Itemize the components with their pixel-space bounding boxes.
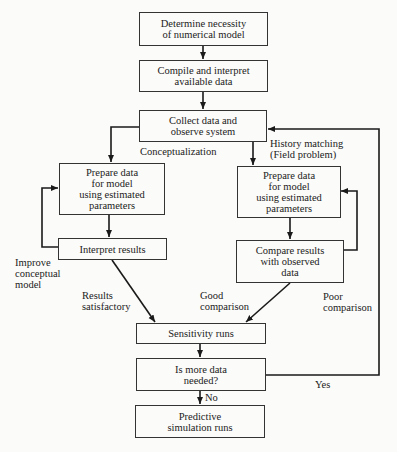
node-interpret-results: Interpret results [58,238,167,260]
node-collect-data: Collect data and observe system [139,110,267,142]
node-prepare-data-left: Prepare data for model using estimated p… [59,163,165,215]
node-determine-necessity: Determine necessity of numerical model [139,12,268,46]
label-yes: Yes [315,379,330,390]
node-label: Prepare data for model using estimated p… [256,170,322,214]
node-compare-results: Compare results with observed data [236,240,344,283]
node-label: Predictive simulation runs [167,411,232,433]
label-improve-model: Improve conceptual model [15,257,60,290]
node-label: Interpret results [79,244,145,255]
node-label: Is more data needed? [175,364,227,386]
label-results-satisfactory: Results satisfactory [82,290,130,312]
label-conceptualization: Conceptualization [140,146,216,157]
node-compile-data: Compile and interpret available data [139,60,268,92]
node-label: Collect data and observe system [169,115,237,137]
label-history-matching: History matching (Field problem) [270,138,343,160]
node-label: Determine necessity of numerical model [161,18,246,40]
label-good-comparison: Good comparison [200,290,249,312]
node-label: Compare results with observed data [256,245,325,278]
node-predictive-runs: Predictive simulation runs [135,405,265,438]
label-no: No [205,392,218,403]
node-prepare-data-right: Prepare data for model using estimated p… [237,166,341,218]
node-sensitivity-runs: Sensitivity runs [136,323,266,344]
node-more-data-needed: Is more data needed? [136,358,266,391]
node-label: Sensitivity runs [168,328,234,339]
node-label: Prepare data for model using estimated p… [79,167,145,211]
node-label: Compile and interpret available data [157,65,249,87]
label-poor-comparison: Poor comparison [323,291,372,313]
